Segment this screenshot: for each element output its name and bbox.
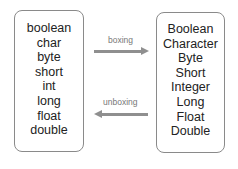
wrapper-class: Integer [171,80,210,95]
primitive-type: float [37,109,61,124]
wrapper-class: Double [171,124,211,139]
wrapper-class: Byte [178,51,203,66]
primitive-type: boolean [27,21,72,36]
boxing-label: boxing [108,35,133,45]
primitive-type: long [37,94,61,109]
unboxing-arrow-icon [101,113,148,116]
boxing-arrow-icon [94,50,142,53]
wrapper-class: Long [177,95,205,110]
wrapper-classes-box: Boolean Character Byte Short Integer Lon… [156,12,225,153]
primitive-type: int [42,79,55,94]
wrapper-class: Character [163,37,218,52]
primitive-type: short [35,65,63,80]
primitive-type: byte [37,50,61,65]
wrapper-class: Short [176,66,206,81]
primitive-type: double [30,123,68,138]
wrapper-class: Boolean [168,22,214,37]
primitive-types-box: boolean char byte short int long float d… [14,10,84,152]
wrapper-class: Float [177,110,205,125]
unboxing-label: unboxing [103,97,138,107]
primitive-type: char [37,36,61,51]
